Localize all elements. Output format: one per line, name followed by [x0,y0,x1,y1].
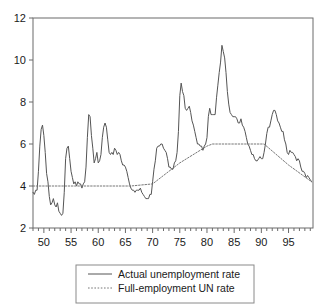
plot-area-border [33,18,313,228]
x-axis-tick-label: 70 [146,236,158,248]
x-axis-tick-label: 90 [255,236,267,248]
x-axis-tick-label: 80 [201,236,213,248]
y-axis-tick-label: 2 [20,222,26,234]
y-axis-tick-label: 8 [20,96,26,108]
x-axis: 50556065707580859095 [33,228,310,248]
y-axis-tick-label: 10 [14,54,26,66]
unemployment-rate-chart: 24681012 50556065707580859095 Actual une… [0,0,325,306]
legend-label-1: Full-employment UN rate [118,282,235,294]
y-axis: 24681012 [14,12,33,234]
x-axis-tick-label: 75 [174,236,186,248]
x-axis-tick-label: 55 [65,236,77,248]
x-axis-tick-label: 65 [119,236,131,248]
x-axis-tick-label: 85 [228,236,240,248]
x-axis-tick-label: 95 [282,236,294,248]
x-axis-tick-label: 60 [92,236,104,248]
plot-frame [33,18,313,228]
legend-label-0: Actual unemployment rate [118,268,240,280]
chart-canvas: 24681012 50556065707580859095 Actual une… [0,0,325,306]
x-axis-tick-label: 50 [38,236,50,248]
y-axis-tick-label: 6 [20,138,26,150]
y-axis-tick-label: 12 [14,12,26,24]
chart-legend: Actual unemployment rateFull-employment … [76,265,254,303]
y-axis-tick-label: 4 [20,180,26,192]
